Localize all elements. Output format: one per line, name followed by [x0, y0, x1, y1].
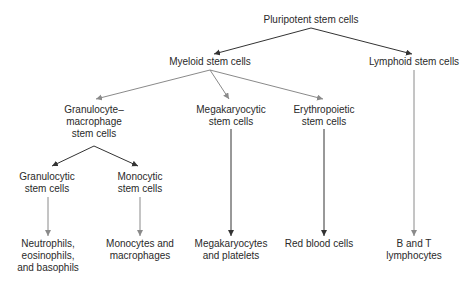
label-line: stem cells: [293, 116, 354, 128]
label-line: Monocytic: [117, 171, 162, 183]
node-lymphoid: Lymphoid stem cells: [369, 56, 459, 68]
label-line: stem cells: [117, 183, 162, 195]
label-line: Monocytes and: [106, 238, 174, 250]
label-line: stem cells: [19, 183, 75, 195]
label-line: B and T: [386, 238, 442, 250]
label-line: Granulocytic: [19, 171, 75, 183]
node-granulocytic: Granulocytic stem cells: [19, 171, 75, 195]
node-monocytes-macrophages: Monocytes and macrophages: [106, 238, 174, 262]
label-line: and platelets: [195, 250, 268, 262]
arrow-pluripotent-lymphoid: [311, 28, 412, 54]
label-line: Granulocyte–: [64, 104, 123, 116]
label-line: Erythropoietic: [293, 104, 354, 116]
node-red-blood-cells: Red blood cells: [285, 238, 353, 250]
label-line: Megakaryocytic: [196, 104, 265, 116]
node-megakaryocytic: Megakaryocytic stem cells: [196, 104, 265, 128]
label-line: macrophage: [64, 116, 123, 128]
node-neutrophils: Neutrophils, eosinophils, and basophils: [17, 238, 79, 274]
label-line: stem cells: [64, 128, 123, 140]
label-line: stem cells: [196, 116, 265, 128]
label-line: Megakaryocytes: [195, 238, 268, 250]
label-line: lymphocytes: [386, 250, 442, 262]
node-granulocyte-macrophage: Granulocyte– macrophage stem cells: [64, 104, 123, 140]
node-erythropoietic: Erythropoietic stem cells: [293, 104, 354, 128]
node-monocytic: Monocytic stem cells: [117, 171, 162, 195]
label-line: eosinophils,: [17, 250, 79, 262]
label-line: and basophils: [17, 262, 79, 274]
node-myeloid: Myeloid stem cells: [169, 56, 251, 68]
node-pluripotent: Pluripotent stem cells: [263, 14, 358, 26]
node-megakaryocytes-platelets: Megakaryocytes and platelets: [195, 238, 268, 262]
label-line: Neutrophils,: [17, 238, 79, 250]
arrow-pluripotent-myeloid: [214, 28, 311, 54]
label-line: macrophages: [106, 250, 174, 262]
node-b-t-lymphocytes: B and T lymphocytes: [386, 238, 442, 262]
